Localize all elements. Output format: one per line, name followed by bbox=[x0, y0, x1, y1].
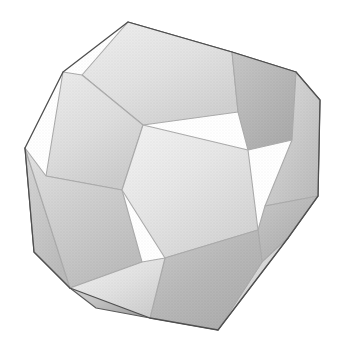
solid-faces bbox=[25, 22, 320, 330]
face-lower-right bbox=[258, 196, 318, 262]
figure-root: Dodecahedron bbox=[0, 0, 350, 354]
figure-caption: Dodecahedron bbox=[0, 342, 350, 352]
face-upper-right bbox=[232, 52, 296, 150]
dodecahedron-illustration bbox=[0, 0, 350, 354]
